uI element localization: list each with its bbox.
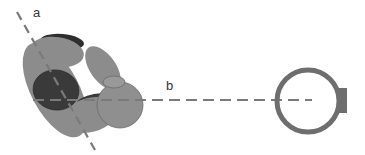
ball-shape <box>97 82 143 128</box>
ball-cap-shape <box>103 76 125 88</box>
diagram-canvas <box>0 0 365 155</box>
axis-a-label: a <box>33 5 40 20</box>
molecule-cluster <box>9 32 143 147</box>
axis-b-label: b <box>166 78 173 93</box>
